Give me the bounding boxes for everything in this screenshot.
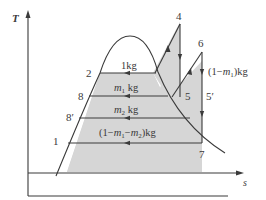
state-label-5: 5 bbox=[185, 90, 191, 102]
t-axis-arrowhead-icon bbox=[26, 10, 31, 18]
ts-diagram: T s 2 8 8′ 1 4 6 5 5′ 7 1kg m1 kg m2 kg … bbox=[0, 0, 266, 200]
state-label-5prime: 5′ bbox=[206, 90, 214, 102]
state-label-1: 1 bbox=[53, 135, 59, 147]
s-axis-arrowhead-icon bbox=[236, 171, 244, 176]
state-label-8: 8 bbox=[78, 90, 84, 102]
mass-label-reheat: (1−m1)kg bbox=[208, 66, 249, 79]
state-label-7: 7 bbox=[199, 148, 205, 160]
mass-label-1kg: 1kg bbox=[121, 60, 138, 71]
axis-label-s: s bbox=[243, 177, 247, 188]
state-label-4: 4 bbox=[176, 10, 182, 22]
axis-label-t: T bbox=[12, 12, 20, 24]
diagram-canvas: T s 2 8 8′ 1 4 6 5 5′ 7 1kg m1 kg m2 kg … bbox=[0, 0, 266, 200]
state-label-2: 2 bbox=[86, 67, 92, 79]
state-label-8prime: 8′ bbox=[66, 111, 74, 123]
state-label-6: 6 bbox=[198, 37, 204, 49]
